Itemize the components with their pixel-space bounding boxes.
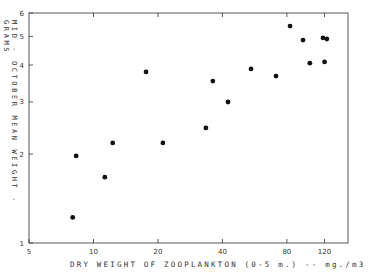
data-point <box>288 24 293 29</box>
data-point <box>203 126 208 131</box>
data-point <box>226 100 231 105</box>
y-tick-label: 2 <box>20 151 24 159</box>
y-axis-label-text: MID - OCTOBER MEAN WEIGHT - GRAMS <box>2 20 18 240</box>
y-tick-label: 5 <box>20 33 24 41</box>
y-tick-label: 6 <box>20 10 25 18</box>
data-point <box>210 79 215 84</box>
x-tick-label: 5 <box>27 248 31 256</box>
data-point <box>249 67 254 72</box>
x-tick-label: 80 <box>282 248 291 256</box>
data-point <box>161 141 166 146</box>
y-tick-label: 1 <box>20 240 24 248</box>
data-point <box>307 61 312 66</box>
x-axis-label: DRY WEIGHT OF ZOOPLANKTON (0-5 m.) -- mg… <box>70 260 365 269</box>
axes <box>29 13 348 243</box>
data-point <box>144 70 149 75</box>
data-point <box>110 141 115 146</box>
data-point <box>301 38 306 43</box>
data-point <box>324 37 329 42</box>
data-point <box>102 175 107 180</box>
x-tick-label: 10 <box>89 248 98 256</box>
tick-marks: 123456510204080120 <box>20 10 332 257</box>
data-point <box>274 74 279 79</box>
x-tick-label: 20 <box>153 248 162 256</box>
data-points <box>70 24 329 220</box>
x-tick-label: 40 <box>218 248 227 256</box>
y-tick-label: 4 <box>20 62 25 70</box>
data-point <box>74 154 79 159</box>
y-axis-label: MID - OCTOBER MEAN WEIGHT - GRAMS <box>2 20 12 240</box>
y-tick-label: 3 <box>20 98 24 106</box>
x-tick-label: 120 <box>318 248 331 256</box>
scatter-plot: 123456510204080120 <box>0 0 380 275</box>
data-point <box>70 215 75 220</box>
plot-frame <box>29 13 348 243</box>
data-point <box>322 59 327 64</box>
